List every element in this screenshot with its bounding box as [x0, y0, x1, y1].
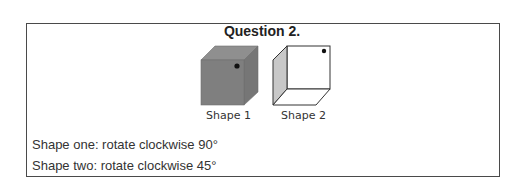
shape-2-label: Shape 2 [281, 109, 326, 122]
instruction-shape-two: Shape two: rotate clockwise 45° [32, 158, 216, 173]
instruction-shape-one: Shape one: rotate clockwise 90° [32, 137, 218, 152]
shape-1-cube [201, 46, 258, 105]
shape-2-cube [273, 46, 330, 105]
shape-1-label: Shape 1 [206, 109, 251, 122]
